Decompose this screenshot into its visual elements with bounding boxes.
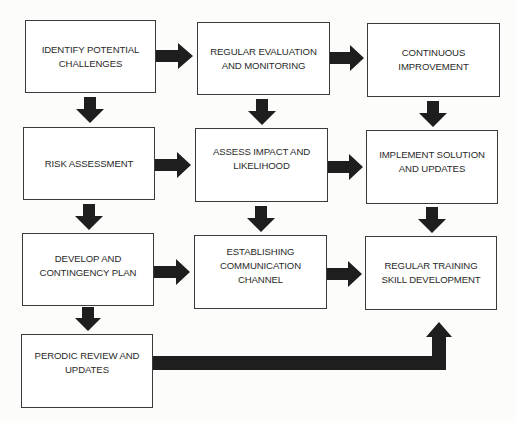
node-risk-assessment: RISK ASSESSMENT xyxy=(23,127,155,200)
arrow-contingency-to-communication xyxy=(154,259,190,285)
node-continuous-improvement: CONTINUOUS IMPROVEMENT xyxy=(367,23,500,97)
arrow-impact-to-communication xyxy=(247,206,275,232)
node-label: REGULAR EVALUATION AND MONITORING xyxy=(204,45,323,73)
arrow-review-to-training xyxy=(153,322,452,370)
arrow-contingency-to-review xyxy=(75,307,101,331)
node-label: IDENTIFY POTENTIAL CHALLENGES xyxy=(36,43,146,71)
node-regular-evaluation-and-monitoring: REGULAR EVALUATION AND MONITORING xyxy=(197,22,330,95)
node-label: IMPLEMENT SOLUTION AND UPDATES xyxy=(373,148,491,176)
node-label: CONTINUOUS IMPROVEMENT xyxy=(392,46,474,74)
node-label: DEVELOP AND CONTINGENCY PLAN xyxy=(34,252,143,280)
node-implement-solution-and-updates: IMPLEMENT SOLUTION AND UPDATES xyxy=(366,130,498,204)
node-develop-contingency-plan: DEVELOP AND CONTINGENCY PLAN xyxy=(22,233,154,306)
arrow-evaluation-to-improvement xyxy=(330,45,364,71)
node-periodic-review-and-updates: PERODIC REVIEW AND UPDATES xyxy=(21,334,153,408)
arrow-identify-to-risk xyxy=(76,97,104,123)
arrow-implement-to-training xyxy=(418,207,446,233)
node-regular-training-skill-development: REGULAR TRAINING SKILL DEVELOPMENT xyxy=(365,236,497,310)
node-identify-potential-challenges: IDENTIFY POTENTIAL CHALLENGES xyxy=(25,20,156,93)
node-establishing-communication-channel: ESTABLISHING COMMUNICATION CHANNEL xyxy=(194,235,327,309)
node-label: ESTABLISHING COMMUNICATION CHANNEL xyxy=(214,245,307,287)
node-label: ASSESS IMPACT AND LIKELIHOOD xyxy=(207,145,316,173)
arrow-improvement-to-implement xyxy=(419,101,447,127)
node-label: REGULAR TRAINING SKILL DEVELOPMENT xyxy=(375,259,486,287)
arrow-communication-to-training xyxy=(327,261,362,287)
arrow-evaluation-to-impact xyxy=(248,99,276,125)
arrow-risk-to-contingency xyxy=(75,204,103,230)
node-assess-impact-and-likelihood: ASSESS IMPACT AND LIKELIHOOD xyxy=(195,128,328,202)
node-label: RISK ASSESSMENT xyxy=(39,157,140,171)
node-label: PERODIC REVIEW AND UPDATES xyxy=(29,349,146,377)
arrow-impact-to-implement xyxy=(328,154,363,180)
arrow-risk-to-impact xyxy=(155,152,191,178)
arrow-identify-to-evaluation xyxy=(156,43,193,69)
